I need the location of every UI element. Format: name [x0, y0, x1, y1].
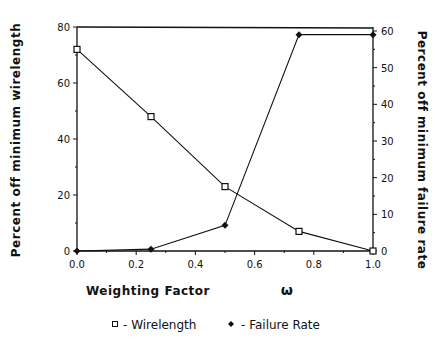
x-tick-label: 0.6: [247, 259, 263, 270]
chart: 020406080 0102030405060 0.00.20.40.60.81…: [0, 0, 435, 348]
y-axis-left-label: Percent off minimum wirelength: [9, 23, 23, 257]
data-point-diamond-icon: [222, 222, 229, 229]
legend-failure-label: - Failure Rate: [241, 318, 320, 332]
x-tick-label: 0.4: [187, 259, 203, 270]
y-right-tick-label: 30: [381, 136, 394, 147]
data-point-diamond-icon: [74, 248, 81, 255]
y-left-tick-label: 20: [57, 190, 70, 201]
data-point-square-icon: [370, 248, 376, 254]
data-point-diamond-icon: [296, 31, 303, 38]
y-right-tick-label: 0: [381, 246, 387, 257]
series-failure-rate: [74, 31, 377, 254]
x-tick-label: 0.0: [69, 259, 85, 270]
y-right-tick-label: 50: [381, 63, 394, 74]
y-axis-right-label: Percent off minimum failure rate: [415, 31, 429, 270]
y-right-tick-label: 40: [381, 99, 394, 110]
legend: - Wirelength - Failure Rate: [113, 318, 320, 332]
y-left-tick-label: 0: [64, 246, 70, 257]
legend-square-icon: [113, 322, 118, 327]
y-right-tick-label: 60: [381, 26, 394, 37]
y-left-tick-label: 40: [57, 134, 70, 145]
data-point-square-icon: [296, 228, 302, 234]
x-tick-label: 1.0: [365, 259, 381, 270]
y-left-tick-label: 60: [57, 78, 70, 89]
plot-frame: [77, 27, 373, 251]
y-axis-right-ticks: 0102030405060: [373, 26, 394, 257]
x-axis-symbol: ω: [281, 282, 294, 298]
data-point-square-icon: [222, 184, 228, 190]
y-axis-left-ticks: 020406080: [57, 22, 77, 257]
x-tick-label: 0.8: [306, 259, 322, 270]
x-axis-label: Weighting Factor: [86, 284, 210, 298]
data-point-square-icon: [148, 114, 154, 120]
legend-diamond-icon: [228, 321, 234, 327]
data-point-diamond-icon: [370, 31, 377, 38]
y-right-tick-label: 20: [381, 173, 394, 184]
y-left-tick-label: 80: [57, 22, 70, 33]
x-axis-ticks: 0.00.20.40.60.81.0: [69, 251, 381, 270]
y-right-tick-label: 10: [381, 209, 394, 220]
legend-wirelength-label: - Wirelength: [123, 318, 196, 332]
data-point-square-icon: [74, 46, 80, 52]
x-tick-label: 0.2: [128, 259, 144, 270]
